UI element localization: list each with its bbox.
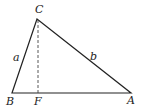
vertex-label-f: F (33, 95, 42, 108)
side-label-b: b (90, 50, 97, 63)
vertex-label-c: C (35, 3, 44, 16)
vertex-label-b: B (5, 95, 14, 108)
triangle-abc (12, 19, 131, 93)
vertex-label-a: A (126, 94, 135, 107)
triangle-diagram: C B F A a b (0, 0, 144, 110)
side-label-a: a (13, 51, 20, 64)
